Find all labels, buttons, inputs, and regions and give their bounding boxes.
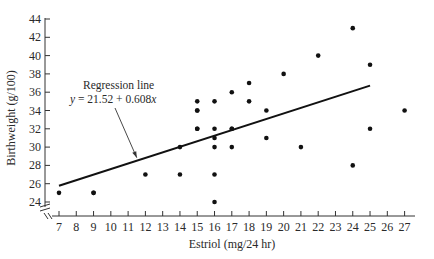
data-point [247,99,252,104]
y-tick-label: 42 [29,30,41,44]
y-tick-label: 44 [29,12,41,26]
x-tick-label: 16 [209,220,221,234]
data-point [299,145,304,150]
data-point [230,145,235,150]
data-point [316,53,321,58]
x-tick-label: 7 [56,220,62,234]
data-point [212,145,217,150]
annotation-arrow [115,108,137,158]
axis-break-icon [40,204,50,211]
y-tick-label: 36 [29,85,41,99]
data-point [368,127,373,132]
scatter-chart: 2426283032343638404244 78910111213141516… [0,0,434,259]
data-point [195,127,200,132]
data-point [212,172,217,177]
x-tick-label: 10 [105,220,117,234]
x-axis-title: Estriol (mg/24 hr) [189,237,276,251]
data-point [195,108,200,113]
data-point [212,127,217,132]
y-tick-label: 28 [29,158,41,172]
data-point [143,172,148,177]
x-tick-label: 12 [139,220,151,234]
y-tick-label: 32 [29,122,41,136]
x-axis: 789101112131415161718192021222324252627 [44,211,415,234]
x-tick-label: 21 [295,220,307,234]
x-tick-label: 19 [260,220,272,234]
data-point [178,172,183,177]
regression-annotation: Regression line y = 21.52 + 0.608x [69,79,157,158]
data-point [91,191,96,196]
y-tick-label: 24 [29,195,41,209]
data-point [212,99,217,104]
y-tick-label: 38 [29,67,41,81]
x-tick-label: 20 [278,220,290,234]
y-axis: 2426283032343638404244 [29,12,50,211]
data-point [57,191,62,196]
data-point [402,108,407,113]
x-tick-label: 24 [347,220,359,234]
annotation-equation: y = 21.52 + 0.608x [69,93,157,106]
y-tick-label: 34 [29,104,41,118]
x-tick-label: 9 [91,220,97,234]
x-tick-label: 27 [399,220,411,234]
x-tick-label: 13 [157,220,169,234]
data-point [264,108,269,113]
x-tick-label: 18 [243,220,255,234]
data-point [195,99,200,104]
x-tick-label: 15 [191,220,203,234]
data-point [350,26,355,31]
data-point [368,62,373,67]
data-point [350,163,355,168]
x-tick-label: 26 [381,220,393,234]
data-point [212,200,217,205]
data-point [247,81,252,86]
y-axis-title: Birthweight (g/100) [4,70,18,166]
arrowhead-icon [132,151,137,158]
x-tick-label: 23 [329,220,341,234]
x-tick-label: 22 [312,220,324,234]
axis-break-icon [44,213,52,219]
x-tick-label: 8 [73,220,79,234]
x-tick-label: 25 [364,220,376,234]
data-point [281,72,286,77]
x-tick-label: 11 [122,220,134,234]
y-tick-label: 40 [29,49,41,63]
annotation-label: Regression line [83,79,154,92]
data-point [230,90,235,95]
x-tick-label: 17 [226,220,238,234]
y-tick-label: 26 [29,177,41,191]
data-points [57,26,407,204]
x-tick-label: 14 [174,220,186,234]
y-tick-label: 30 [29,140,41,154]
data-point [264,136,269,141]
